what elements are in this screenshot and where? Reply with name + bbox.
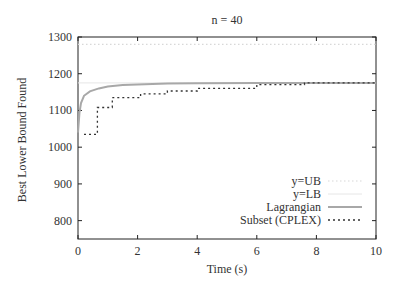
legend-label: y=LB: [293, 187, 321, 201]
y-tick-label: 900: [54, 177, 72, 191]
x-tick-label: 10: [370, 244, 382, 258]
legend-label: Subset (CPLEX): [240, 213, 321, 227]
legend: y=UBy=LBLagrangianSubset (CPLEX): [240, 174, 362, 227]
y-tick-label: 1100: [48, 103, 72, 117]
y-axis-label: Best Lower Bound Found: [15, 78, 29, 202]
series-lagrangian: [78, 83, 376, 133]
x-tick-label: 4: [194, 244, 200, 258]
x-tick-label: 6: [254, 244, 260, 258]
legend-label: y=UB: [292, 174, 321, 188]
plot-frame: [78, 37, 376, 239]
x-axis-ticks: 0246810: [75, 37, 382, 258]
x-tick-label: 8: [313, 244, 319, 258]
y-tick-label: 1200: [48, 67, 72, 81]
y-tick-label: 1300: [48, 30, 72, 44]
x-tick-label: 2: [135, 244, 141, 258]
chart: n = 40 8009001000110012001300 0246810 Be…: [0, 0, 400, 291]
series-lines: [78, 44, 376, 134]
x-axis-label: Time (s): [207, 262, 248, 276]
chart-title: n = 40: [212, 13, 243, 27]
x-tick-label: 0: [75, 244, 81, 258]
y-tick-label: 1000: [48, 140, 72, 154]
series-subset-cplex: [84, 83, 376, 134]
y-axis-ticks: 8009001000110012001300: [48, 30, 376, 228]
y-tick-label: 800: [54, 214, 72, 228]
legend-label: Lagrangian: [266, 200, 321, 214]
